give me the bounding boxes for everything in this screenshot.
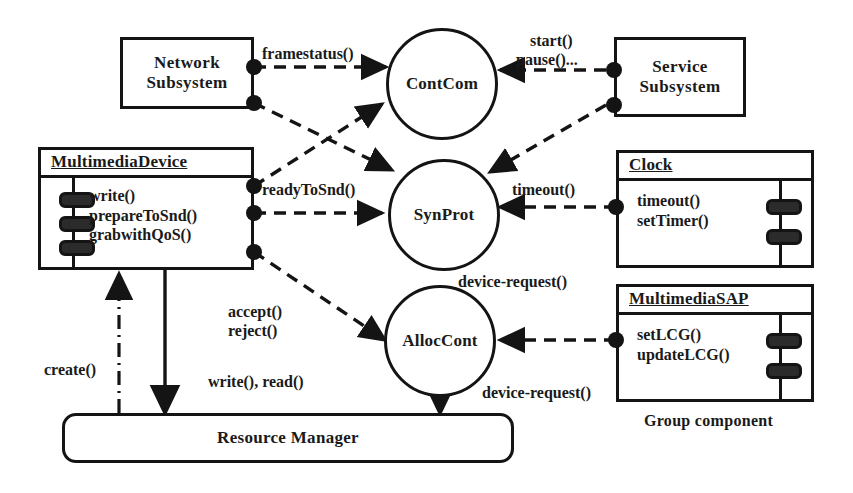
label-write-read: write(), read() [208, 372, 304, 391]
component-multimedia-sap[interactable]: MultimediaSAP setLCG() updateLCG() [616, 284, 814, 402]
interface-icon-2[interactable] [766, 363, 802, 379]
label-device-request-top: device-request() [458, 272, 567, 291]
port-device-contcom[interactable] [246, 178, 262, 194]
label-pause-text: pause()... [516, 50, 578, 69]
operation-preparetosnd: prepareToSnd() [89, 206, 197, 226]
label-start-pause: start() pause()... [516, 31, 578, 69]
multimedia-device-interface-rail [72, 178, 75, 267]
multimedia-device-operations: write() prepareToSnd() grabwithQoS() [89, 186, 197, 245]
label-timeout: timeout() [512, 180, 575, 199]
label-framestatus: framestatus() [262, 44, 354, 63]
label-accept-reject: accept() reject() [228, 302, 282, 340]
multimedia-sap-interface-rail [779, 315, 782, 399]
port-clock-synprot[interactable] [608, 199, 624, 215]
interface-icon-1[interactable] [766, 199, 802, 215]
multimedia-sap-title: MultimediaSAP [619, 287, 811, 315]
clock-operations: timeout() setTimer() [637, 191, 709, 230]
port-service-contcom[interactable] [606, 62, 622, 78]
operation-settimer: setTimer() [637, 211, 709, 231]
diagram-canvas: Network Subsystem Service Subsystem Mult… [0, 0, 853, 493]
clock-body: timeout() setTimer() [619, 181, 811, 265]
caption-group-component: Group component [644, 412, 773, 430]
multimedia-device-title: MultimediaDevice [41, 150, 251, 178]
multimedia-sap-operations: setLCG() updateLCG() [637, 325, 729, 364]
clock-interface-rail [779, 181, 782, 265]
port-service-synprot[interactable] [606, 97, 622, 113]
label-device-request-bottom: device-request() [482, 383, 591, 402]
port-network-synprot[interactable] [246, 95, 262, 111]
label-readytosnd-text: readyToSnd() [262, 180, 355, 199]
label-reject-text: reject() [228, 321, 282, 340]
label-framestatus-text: framestatus() [262, 44, 354, 63]
port-device-alloccont[interactable] [246, 244, 262, 260]
interface-synprot[interactable]: SynProt [388, 159, 500, 271]
interface-icon-2[interactable] [766, 229, 802, 245]
interface-contcom[interactable]: ContCom [386, 28, 498, 140]
multimedia-sap-body: setLCG() updateLCG() [619, 315, 811, 399]
label-write-read-text: write(), read() [208, 372, 304, 391]
operation-timeout: timeout() [637, 191, 709, 211]
clock-title: Clock [619, 153, 811, 181]
clock-title-text: Clock [629, 155, 673, 174]
label-create-text: create() [44, 360, 96, 379]
component-service-subsystem[interactable]: Service Subsystem [614, 37, 746, 117]
operation-setlcg: setLCG() [637, 325, 729, 345]
component-multimedia-device[interactable]: MultimediaDevice write() prepareToSnd() … [38, 147, 254, 270]
network-subsystem-line2: Subsystem [146, 73, 227, 93]
label-start-text: start() [516, 31, 578, 50]
component-resource-manager[interactable]: Resource Manager [62, 413, 514, 463]
label-create: create() [44, 360, 96, 379]
component-network-subsystem[interactable]: Network Subsystem [120, 37, 254, 109]
wire-service-to-synprot [490, 105, 606, 172]
port-device-synprot[interactable] [246, 205, 262, 221]
operation-write: write() [89, 186, 197, 206]
wire-network-to-synprot [254, 103, 392, 170]
interface-alloccont-label: AllocCont [402, 331, 477, 351]
label-accept-text: accept() [228, 302, 282, 321]
label-readytosnd: readyToSnd() [262, 180, 355, 199]
multimedia-device-body: write() prepareToSnd() grabwithQoS() [41, 178, 251, 267]
interface-icon-1[interactable] [766, 333, 802, 349]
resource-manager-label: Resource Manager [217, 428, 359, 448]
caption-group-component-text: Group component [644, 412, 773, 429]
label-timeout-text: timeout() [512, 180, 575, 199]
service-subsystem-line2: Subsystem [639, 77, 720, 97]
interface-synprot-label: SynProt [414, 205, 475, 225]
network-subsystem-line1: Network [146, 53, 227, 73]
multimedia-device-title-text: MultimediaDevice [51, 152, 187, 171]
port-network-framestatus[interactable] [246, 59, 262, 75]
wire-device-to-contcom [254, 104, 382, 186]
operation-grabwithqos: grabwithQoS() [89, 225, 197, 245]
interface-alloccont[interactable]: AllocCont [384, 285, 496, 397]
interface-contcom-label: ContCom [406, 74, 478, 94]
label-device-request-bottom-text: device-request() [482, 383, 591, 402]
service-subsystem-line1: Service [639, 57, 720, 77]
multimedia-sap-title-text: MultimediaSAP [629, 289, 749, 308]
label-device-request-top-text: device-request() [458, 272, 567, 291]
port-sap-alloccont[interactable] [608, 332, 624, 348]
component-clock[interactable]: Clock timeout() setTimer() [616, 150, 814, 268]
operation-updatelcg: updateLCG() [637, 345, 729, 365]
